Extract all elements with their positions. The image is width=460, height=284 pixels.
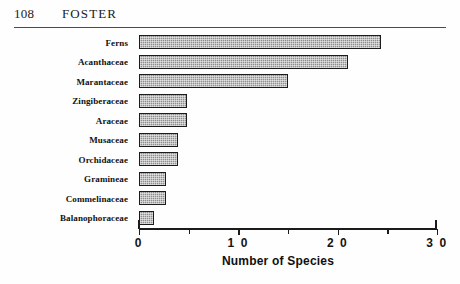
category-axis-labels: Ferns Acanthaceae Marantaceae Zingiberac… [0,33,134,228]
bar [139,172,166,186]
bars-container [139,33,439,228]
x-tick-label: 1 0 [228,236,249,250]
bar-row [139,189,439,209]
bar-row [139,131,439,151]
category-row: Acanthaceae [0,53,134,73]
bar-row [139,92,439,112]
x-tick-major [238,229,239,235]
bar [139,152,178,166]
bar [139,55,348,69]
x-tick-label: 2 0 [327,236,348,250]
bar-chart: Ferns Acanthaceae Marantaceae Zingiberac… [0,28,460,284]
x-tick-minor [288,229,289,234]
bar-row [139,53,439,73]
x-tick-label: 0 [135,236,143,250]
x-axis-title-text: Number of Species [222,254,334,268]
category-label: Araceae [96,116,128,126]
bar [139,94,187,108]
category-label: Orchidaceae [79,155,128,165]
x-axis-left-cap [138,220,140,229]
category-label: Gramineae [84,174,128,184]
x-tick-major [139,229,140,235]
category-row: Orchidaceae [0,150,134,170]
bar-row [139,111,439,131]
running-head-title: FOSTER [62,6,117,22]
figure-page: 108 FOSTER Ferns Acanthaceae Marantaceae… [0,0,460,284]
running-head: 108 FOSTER [0,6,460,28]
category-row: Zingiberaceae [0,92,134,112]
bar [139,133,178,147]
bar-row [139,170,439,190]
x-tick-major [338,229,339,235]
category-label: Marantaceae [76,77,128,87]
bar [139,211,154,225]
x-tick-major [437,229,438,235]
page-number: 108 [14,6,34,22]
x-axis-title: Number of Species [0,254,460,268]
bar-row [139,33,439,53]
category-label: Commelinaceae [66,194,128,204]
bar-row [139,150,439,170]
category-row: Commelinaceae [0,189,134,209]
bar [139,35,381,49]
category-row: Ferns [0,33,134,53]
x-tick-minor [387,229,388,234]
category-row: Gramineae [0,170,134,190]
bar [139,191,166,205]
bar [139,113,187,127]
category-label: Ferns [106,38,129,48]
category-row: Balanophoraceae [0,209,134,229]
category-row: Marantaceae [0,72,134,92]
bar-row [139,72,439,92]
category-label: Zingiberaceae [72,96,128,106]
category-row: Musaceae [0,131,134,151]
category-row: Araceae [0,111,134,131]
bar-row [139,209,439,229]
category-label: Acanthaceae [78,57,128,67]
x-tick-minor [189,229,190,234]
bar [139,74,288,88]
category-label: Musaceae [89,135,128,145]
x-tick-label: 3 0 [426,236,447,250]
category-label: Balanophoraceae [60,213,128,223]
x-axis-right-cap [435,220,437,229]
